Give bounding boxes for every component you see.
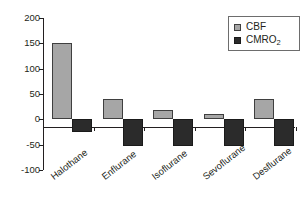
- y-axis-tick-label: -50: [26, 140, 40, 150]
- legend-item-cmro2: CMRO2: [234, 34, 294, 46]
- bar-sevoflurane-cbf: [204, 114, 224, 119]
- bar-enflurane-cmro2: [123, 119, 143, 145]
- legend-swatch-cbf: [234, 24, 241, 31]
- bar-halothane-cmro2: [72, 119, 92, 132]
- bar-enflurane-cbf: [103, 99, 123, 119]
- bar-halothane-cbf: [52, 43, 72, 119]
- y-axis-tick-label: 50: [29, 89, 40, 99]
- bar-desflurane-cbf: [254, 99, 274, 119]
- legend-swatch-cmro2: [234, 37, 241, 44]
- bar-desflurane-cmro2: [274, 119, 294, 145]
- legend-label-cmro2-text: CMRO: [246, 34, 277, 45]
- bar-isoflurane-cmro2: [173, 119, 193, 146]
- y-axis-tick-label: 0: [35, 115, 40, 125]
- bar-chart: 200150100500-50-100 HalothaneEnfluraneIs…: [0, 0, 305, 215]
- legend: CBF CMRO2: [228, 16, 300, 51]
- legend-label-cmro2-subscript: 2: [277, 38, 281, 47]
- y-axis-tick-label: -100: [21, 165, 40, 175]
- bar-isoflurane-cbf: [153, 110, 173, 120]
- y-axis-tick-label: 150: [24, 39, 40, 49]
- legend-item-cbf: CBF: [234, 21, 294, 33]
- y-axis-tick-label: 100: [24, 64, 40, 74]
- legend-label-cmro2: CMRO2: [246, 35, 281, 45]
- x-axis-tick: [296, 127, 297, 131]
- legend-label-cbf: CBF: [246, 22, 266, 32]
- y-axis-tick-label: 200: [24, 13, 40, 23]
